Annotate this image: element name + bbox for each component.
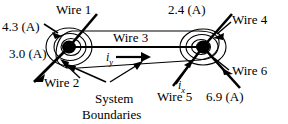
label-current-6-9: 6.9 (A) <box>206 90 244 103</box>
arrow-current-4-3 <box>44 24 62 39</box>
label-current-4-3: 4.3 (A) <box>2 20 40 33</box>
label-wire-6: Wire 6 <box>232 64 267 77</box>
label-wire-3: Wire 3 <box>113 31 148 44</box>
label-current-2-4: 2.4 (A) <box>168 3 206 16</box>
figure-circuit-diagram: Wire 1 4.3 (A) 3.0 (A) Wire 3 iy 2.4 (A)… <box>0 0 288 124</box>
label-system-boundaries-line1: System <box>95 92 133 105</box>
label-wire-5: Wire 5 <box>157 90 192 103</box>
arrow-current-6-9 <box>214 58 233 75</box>
label-system-boundaries-line2: Boundaries <box>82 108 141 121</box>
label-current-3-0: 3.0 (A) <box>9 47 47 60</box>
label-wire-2: Wire 2 <box>44 76 79 89</box>
iy-subscript: y <box>109 57 113 67</box>
label-current-iy: iy <box>106 48 113 67</box>
label-wire-4: Wire 4 <box>232 13 267 26</box>
current-iy-arrow <box>116 52 151 62</box>
label-wire-1: Wire 1 <box>56 3 91 16</box>
